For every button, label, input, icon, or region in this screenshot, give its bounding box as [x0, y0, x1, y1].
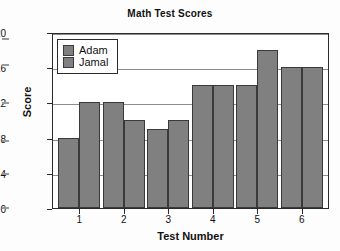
legend-label: Jamal: [79, 57, 108, 68]
bar-group: [236, 34, 278, 208]
y-axis-tick-label: 8: [0, 133, 6, 144]
x-axis-tick-mark: [213, 209, 214, 214]
scan-artifact: [2, 102, 9, 104]
x-axis-tick-label: 5: [237, 214, 277, 225]
bar-adam-test-1: [58, 138, 79, 208]
bar-jamal-test-1: [79, 102, 100, 208]
chart-title: Math Test Scores: [0, 8, 340, 19]
chart-figure: Math Test Scores 048121620 Score AdamJam…: [0, 0, 340, 251]
y-axis-tick-label: 20: [0, 28, 6, 39]
bar-adam-test-4: [192, 85, 213, 208]
bar-jamal-test-4: [213, 85, 234, 208]
x-axis-tick-label: 4: [193, 214, 233, 225]
bar-adam-test-6: [281, 67, 302, 208]
scan-artifact: [2, 64, 9, 66]
x-axis-tick-label: 3: [148, 214, 188, 225]
scan-artifact: [2, 38, 9, 40]
y-axis-label: Score: [21, 72, 33, 132]
legend-swatch-icon: [63, 57, 74, 68]
bar-jamal-test-5: [257, 50, 278, 208]
scan-artifact: [2, 140, 9, 142]
bar-adam-test-5: [236, 85, 257, 208]
legend-label: Adam: [79, 45, 108, 56]
y-axis-tick-label: 0: [0, 204, 6, 215]
bar-group: [281, 34, 323, 208]
bar-adam-test-3: [147, 129, 168, 208]
legend-item-adam: Adam: [63, 45, 108, 56]
scan-artifact: [2, 207, 9, 209]
x-axis-tick-mark: [124, 209, 125, 214]
legend-item-jamal: Jamal: [63, 57, 108, 68]
y-axis-tick-mark: [47, 209, 52, 210]
x-axis-tick-mark: [257, 209, 258, 214]
legend-swatch-icon: [63, 45, 74, 56]
x-axis-tick-label: 2: [104, 214, 144, 225]
x-axis-tick-mark: [302, 209, 303, 214]
bar-adam-test-2: [103, 102, 124, 208]
bar-jamal-test-2: [124, 120, 145, 208]
x-axis-tick-mark: [79, 209, 80, 214]
bar-jamal-test-3: [168, 120, 189, 208]
bar-jamal-test-6: [302, 67, 323, 208]
scan-artifact: [2, 173, 9, 175]
bar-group: [147, 34, 189, 208]
x-axis-label: Test Number: [52, 230, 329, 242]
bar-group: [192, 34, 234, 208]
x-axis-tick-label: 6: [282, 214, 322, 225]
x-axis-tick-mark: [168, 209, 169, 214]
x-axis-tick-label: 1: [59, 214, 99, 225]
chart-legend: AdamJamal: [57, 39, 118, 74]
